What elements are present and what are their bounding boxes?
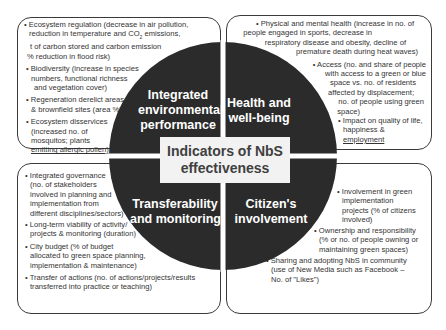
- label-line: Transferability: [130, 197, 220, 212]
- label-line: and monitoring: [130, 212, 220, 227]
- quadrant-label-citizen: Citizen's involvement: [231, 197, 311, 227]
- center-title-line-1: Indicators of NbS: [167, 143, 283, 160]
- bullet-line: t of carbon stored and carbon emission: [24, 42, 188, 51]
- quadrant-label-environment: Integrated environmental performance: [138, 88, 218, 133]
- label-line: performance: [138, 118, 218, 133]
- bullet-line: allocated to green space planning,: [25, 251, 195, 260]
- center-title-box: Indicators of NbS effectiveness: [160, 137, 290, 183]
- citizen-bullet-list-2: • Ownership and responsibility (% or no.…: [314, 226, 418, 254]
- bullet-line: reduction in temperature and CO2 emissio…: [24, 29, 188, 42]
- bullet-line: No. of "Likes"): [266, 275, 407, 284]
- bullet-line: • Ecosystem regulation (decrease in air …: [24, 20, 188, 29]
- bullet-line: people engaged in sports, decrease in: [226, 28, 426, 37]
- bullet-line: involved): [337, 215, 416, 224]
- center-title-line-2: effectiveness: [181, 160, 270, 177]
- bullet-line: premature death during heat waves): [226, 47, 426, 56]
- quadrant-label-transferability: Transferability and monitoring: [130, 197, 220, 227]
- label-line: well-being: [224, 111, 294, 126]
- health-bullet-list-2: • Impact on quality of life, happiness &…: [338, 116, 423, 144]
- bullet-line: maintaining green spaces): [314, 245, 418, 254]
- bullet-line: implementation & maintenance): [25, 261, 195, 270]
- bullet-line: (use of New Media such as Facebook –: [266, 265, 407, 274]
- bullet-line: • Ownership and responsibility: [314, 226, 418, 235]
- label-line: Health and: [224, 96, 294, 111]
- citizen-bullet-list: • Involvement in green implementation pr…: [337, 187, 416, 225]
- bullet-line: • Impact on quality of life,: [338, 116, 423, 125]
- bullet-line: • Physical and mental health (increase i…: [226, 19, 426, 28]
- bullet-line: • Involvement in green: [337, 187, 416, 196]
- bullet-line: space vs. no. of residents: [226, 78, 426, 87]
- bullet-line: • Sharing and adopting NbS in community: [266, 256, 407, 265]
- bullet-line: projects (% of citizens: [337, 206, 416, 215]
- bullet-line: transferred into practice or teaching): [25, 282, 195, 291]
- bullet-line: employment: [338, 135, 423, 144]
- bullet-line: • City budget (% of budget: [25, 242, 195, 251]
- bullet-line: with access to a green or blue: [226, 69, 426, 78]
- bullet-line: • Access (no. and share of people: [226, 60, 426, 69]
- bullet-line: % reduction in flood risk): [24, 52, 188, 61]
- citizen-bullet-list-3: • Sharing and adopting NbS in community …: [266, 256, 407, 284]
- label-line: involvement: [231, 212, 311, 227]
- label-line: environmental: [138, 103, 218, 118]
- label-line: Citizen's: [231, 197, 311, 212]
- transferability-bullet-list: • Integrated governance (no. of stakehol…: [25, 171, 195, 292]
- bullet-line: numbers, functional richness: [24, 74, 188, 83]
- bullet-line: • Transfer of actions (no. of actions/pr…: [25, 273, 195, 282]
- bullet-line: implementation: [337, 196, 416, 205]
- bullet-line: happiness &: [338, 125, 423, 134]
- quadrant-label-health: Health and well-being: [224, 96, 294, 126]
- bullet-line: • Biodiversity (increase in species: [24, 64, 188, 73]
- bullet-line: respiratory disease and obesity, decline…: [226, 38, 426, 47]
- label-line: Integrated: [138, 88, 218, 103]
- bullet-line: (% or no. of people owning or: [314, 235, 418, 244]
- bullet-line: projects & monitoring (duration): [25, 229, 195, 238]
